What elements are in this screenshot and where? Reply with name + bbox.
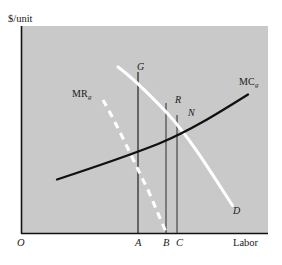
economics-diagram: $/unit Labor O A B C MRg MCg D G R N <box>0 0 282 265</box>
plot-canvas <box>0 0 282 265</box>
